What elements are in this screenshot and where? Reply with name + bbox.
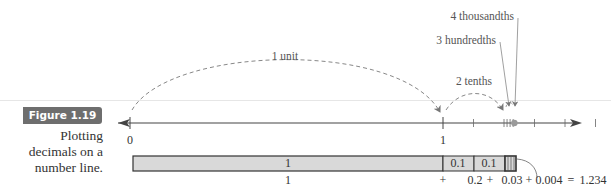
sum-equals: = <box>568 173 575 187</box>
sum-plus-1: + <box>440 173 447 187</box>
hundredths-label: 3 hundredths <box>436 34 496 46</box>
sum-result: 1.234 <box>580 173 607 187</box>
unit-jump-arc <box>132 60 440 112</box>
sum-plus-2: + <box>487 173 494 187</box>
bar-label-one: 1 <box>285 156 291 170</box>
sum-plus-3: + <box>526 173 533 187</box>
hundredths-small-arc <box>506 102 513 107</box>
tick-label-0: 0 <box>127 133 133 147</box>
tenths-jump-label: 2 tenths <box>456 75 493 87</box>
thousandths-leader <box>515 18 518 106</box>
tick-label-1: 1 <box>440 133 446 147</box>
sum-term-4: 0.004 <box>536 173 563 187</box>
sum-term-1: 1 <box>285 173 291 187</box>
sum-term-3: 0.03 <box>502 173 523 187</box>
number-line-diagram: 0 1 1 unit 2 tenths 3 hundredths 4 thous… <box>0 0 611 194</box>
plotted-point <box>511 120 517 126</box>
sum-term-2: 0.2 <box>468 173 483 187</box>
bar-label-tenth-1: 0.1 <box>451 156 466 170</box>
hundredths-leader <box>500 42 509 106</box>
thousandths-label: 4 thousandths <box>450 10 514 22</box>
bar-label-tenth-2: 0.1 <box>482 156 497 170</box>
unit-jump-label: 1 unit <box>272 50 299 62</box>
tenths-jump-arc <box>446 94 503 111</box>
